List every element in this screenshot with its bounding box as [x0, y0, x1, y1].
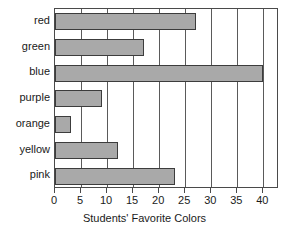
bar-row	[55, 112, 279, 138]
x-tick-20	[158, 188, 159, 193]
x-tick-35	[236, 188, 237, 193]
category-axis-labels: redgreenbluepurpleorangeyellowpink	[0, 8, 50, 188]
x-axis: 0510152025303540	[54, 188, 278, 212]
bar-red	[55, 13, 196, 30]
category-label-yellow: yellow	[19, 137, 50, 163]
x-axis-title: Students' Favorite Colors	[0, 212, 289, 224]
bar-row	[55, 138, 279, 164]
x-tick-label-35: 35	[230, 194, 242, 206]
x-tick-label-15: 15	[126, 194, 138, 206]
bar-row	[55, 86, 279, 112]
x-tick-15	[132, 188, 133, 193]
bar-purple	[55, 90, 102, 107]
x-tick-0	[54, 188, 55, 193]
x-tick-label-10: 10	[100, 194, 112, 206]
category-label-pink: pink	[30, 162, 50, 188]
bar-row	[55, 163, 279, 189]
x-tick-label-5: 5	[77, 194, 83, 206]
bar-blue	[55, 65, 263, 82]
x-tick-label-30: 30	[204, 194, 216, 206]
x-tick-label-20: 20	[152, 194, 164, 206]
bar-row	[55, 60, 279, 86]
bar-green	[55, 39, 144, 56]
bar-row	[55, 35, 279, 61]
category-label-red: red	[34, 8, 50, 34]
bar-orange	[55, 116, 71, 133]
x-tick-label-40: 40	[256, 194, 268, 206]
x-tick-25	[184, 188, 185, 193]
x-tick-5	[80, 188, 81, 193]
plot-area	[54, 8, 278, 188]
category-label-purple: purple	[19, 85, 50, 111]
bar-yellow	[55, 142, 118, 159]
bar-pink	[55, 168, 175, 185]
bar-chart: redgreenbluepurpleorangeyellowpink 05101…	[0, 0, 289, 233]
category-label-blue: blue	[29, 59, 50, 85]
category-label-orange: orange	[16, 111, 50, 137]
x-tick-10	[106, 188, 107, 193]
x-tick-label-25: 25	[178, 194, 190, 206]
x-tick-40	[262, 188, 263, 193]
x-tick-30	[210, 188, 211, 193]
category-label-green: green	[22, 34, 50, 60]
bar-row	[55, 9, 279, 35]
x-tick-label-0: 0	[51, 194, 57, 206]
